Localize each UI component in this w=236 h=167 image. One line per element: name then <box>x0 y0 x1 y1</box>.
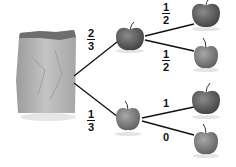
prob-label-branch-2: 13 <box>87 109 95 132</box>
prob-label-leaf-3: 1 <box>163 97 169 109</box>
apple-icon-mid-top <box>116 22 144 53</box>
apple-icon-leaf-2 <box>193 38 219 72</box>
apple-icon-mid-bottom <box>115 101 141 136</box>
prob-label-leaf-4: 0 <box>163 131 169 143</box>
prob-label-branch-1: 23 <box>87 28 95 51</box>
prob-label-leaf-2: 12 <box>162 49 170 72</box>
apple-icon-leaf-1 <box>192 0 220 31</box>
bag-icon <box>16 30 76 121</box>
tree-graphics <box>0 0 236 167</box>
probability-tree-diagram: 23 13 12 12 1 0 <box>0 0 236 167</box>
apple-icon-leaf-3 <box>192 83 220 119</box>
prob-label-leaf-1: 12 <box>162 2 170 25</box>
apple-icon-leaf-4 <box>193 124 219 158</box>
